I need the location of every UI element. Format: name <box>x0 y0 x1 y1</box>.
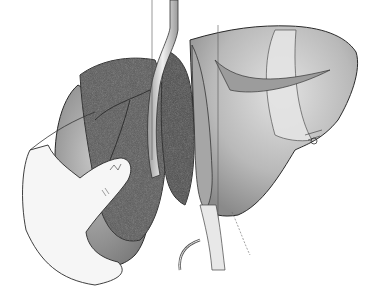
stitched-edge <box>232 212 250 255</box>
liver-illustration <box>0 0 378 294</box>
texture-overlay <box>161 50 194 205</box>
illustration-canvas <box>0 0 378 294</box>
